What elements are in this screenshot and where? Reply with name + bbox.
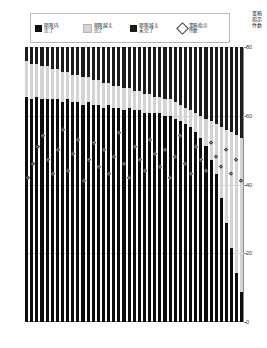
bar-column[interactable] (30, 47, 33, 322)
bar-segment-late-open (163, 47, 166, 99)
bar-segment-ontime-done (138, 110, 141, 322)
bar-segment-late-done (174, 102, 177, 119)
bar-segment-ontime-done (240, 292, 243, 322)
bar-segment-late-open (122, 47, 125, 88)
bar-series-group (25, 47, 244, 322)
bar-column[interactable] (128, 47, 131, 322)
bar-segment-ontime-done (179, 121, 182, 322)
bar-column[interactable] (143, 47, 146, 322)
bar-column[interactable] (220, 47, 223, 322)
bar-segment-late-open (66, 47, 69, 72)
bar-segment-ontime-done (230, 248, 233, 322)
bar-column[interactable] (204, 47, 207, 322)
bar-segment-late-done (87, 77, 90, 102)
bar-column[interactable] (199, 47, 202, 322)
legend-item-instruction-count[interactable]: 業務指示 件数 (178, 23, 226, 34)
bar-column[interactable] (210, 47, 213, 322)
bar-column[interactable] (133, 47, 136, 322)
bar-segment-late-done (56, 69, 59, 99)
bar-segment-late-open (235, 47, 238, 135)
bar-segment-ontime-done (35, 97, 38, 323)
bar-segment-late-open (25, 47, 28, 61)
legend-item-late-open[interactable]: 期限越え 未完了 (130, 23, 178, 34)
bar-column[interactable] (189, 47, 192, 322)
bar-column[interactable] (51, 47, 54, 322)
bar-segment-ontime-done (143, 113, 146, 322)
bar-column[interactable] (25, 47, 28, 322)
bar-segment-late-done (61, 72, 64, 102)
bar-segment-ontime-done (46, 99, 49, 322)
bar-column[interactable] (122, 47, 125, 322)
bar-column[interactable] (240, 47, 243, 322)
x-axis-tick-label (239, 323, 244, 348)
bar-segment-ontime-done (148, 113, 151, 322)
bar-segment-late-done (46, 66, 49, 99)
bar-segment-late-done (122, 88, 125, 110)
bar-column[interactable] (194, 47, 197, 322)
bar-segment-late-open (199, 47, 202, 116)
bar-column[interactable] (87, 47, 90, 322)
legend-swatch-square-late-done (83, 24, 92, 33)
bar-column[interactable] (169, 47, 172, 322)
bar-segment-late-done (25, 61, 28, 97)
bar-segment-late-open (71, 47, 74, 75)
bar-segment-late-done (230, 132, 233, 248)
legend-swatch-square-late-open (130, 25, 137, 32)
bar-segment-ontime-done (76, 102, 79, 322)
bar-segment-ontime-done (220, 198, 223, 322)
bar-column[interactable] (112, 47, 115, 322)
bar-segment-late-done (169, 99, 172, 116)
bar-column[interactable] (35, 47, 38, 322)
bar-segment-ontime-done (174, 119, 177, 323)
chart-root: 期限内 完了 期限越え 完了 期限越え 未完了 業務指示 件数 業務 指示 件数… (0, 0, 267, 348)
bar-segment-late-done (163, 99, 166, 116)
legend-swatch-diamond-icon (176, 22, 189, 35)
bar-column[interactable] (81, 47, 84, 322)
bar-column[interactable] (107, 47, 110, 322)
bar-segment-late-open (56, 47, 59, 69)
bar-segment-late-done (184, 108, 187, 125)
bar-column[interactable] (40, 47, 43, 322)
bar-segment-late-done (30, 64, 33, 100)
bar-segment-ontime-done (184, 124, 187, 322)
bar-column[interactable] (179, 47, 182, 322)
bar-column[interactable] (215, 47, 218, 322)
legend-item-late-done[interactable]: 期限越え 完了 (83, 23, 131, 34)
bar-column[interactable] (153, 47, 156, 322)
bar-segment-ontime-done (102, 108, 105, 323)
bar-segment-late-done (240, 138, 243, 292)
bar-column[interactable] (230, 47, 233, 322)
bar-segment-late-done (81, 77, 84, 105)
legend-item-ontime-done[interactable]: 期限内 完了 (35, 23, 83, 34)
bar-segment-late-open (128, 47, 131, 88)
bar-column[interactable] (61, 47, 64, 322)
bar-column[interactable] (225, 47, 228, 322)
bar-segment-late-done (194, 113, 197, 132)
bar-segment-ontime-done (66, 99, 69, 322)
bar-column[interactable] (138, 47, 141, 322)
bar-segment-late-done (35, 64, 38, 97)
bar-column[interactable] (235, 47, 238, 322)
bar-column[interactable] (184, 47, 187, 322)
bar-column[interactable] (56, 47, 59, 322)
bar-column[interactable] (117, 47, 120, 322)
bar-segment-ontime-done (51, 99, 54, 322)
bar-column[interactable] (174, 47, 177, 322)
bar-column[interactable] (148, 47, 151, 322)
bar-column[interactable] (158, 47, 161, 322)
bar-segment-ontime-done (107, 105, 110, 322)
chart-legend: 期限内 完了 期限越え 完了 期限越え 未完了 業務指示 件数 (30, 13, 230, 43)
bar-column[interactable] (102, 47, 105, 322)
plot-area: 020406080 (25, 47, 244, 322)
bar-segment-late-done (117, 86, 120, 108)
bar-segment-ontime-done (225, 223, 228, 322)
bar-column[interactable] (46, 47, 49, 322)
bar-column[interactable] (71, 47, 74, 322)
bar-column[interactable] (76, 47, 79, 322)
bar-column[interactable] (97, 47, 100, 322)
bar-column[interactable] (92, 47, 95, 322)
bar-segment-late-done (40, 66, 43, 99)
bar-column[interactable] (163, 47, 166, 322)
bar-segment-ontime-done (133, 110, 136, 322)
bar-column[interactable] (66, 47, 69, 322)
